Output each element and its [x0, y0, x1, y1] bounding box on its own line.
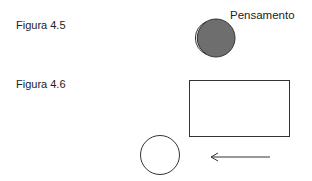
figure-drawings [0, 0, 312, 181]
left-arrow-icon [211, 153, 270, 161]
empty-circle-shape [141, 136, 180, 175]
shaded-circle-icon [195, 19, 235, 57]
rectangle-shape [190, 81, 290, 137]
